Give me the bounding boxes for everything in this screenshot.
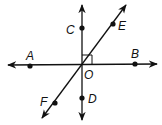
- point-a: [27, 63, 32, 68]
- label-d: D: [88, 92, 97, 106]
- label-o: O: [84, 68, 93, 82]
- label-f: F: [40, 95, 48, 109]
- point-c: [79, 25, 84, 30]
- point-f: [52, 100, 57, 105]
- point-e: [110, 21, 115, 26]
- label-a: A: [25, 49, 34, 63]
- label-b: B: [131, 47, 139, 61]
- label-c: C: [66, 23, 75, 37]
- geometry-diagram: A B C D E F O: [0, 0, 162, 125]
- point-b: [132, 61, 137, 66]
- label-e: E: [118, 19, 127, 33]
- point-d: [79, 95, 84, 100]
